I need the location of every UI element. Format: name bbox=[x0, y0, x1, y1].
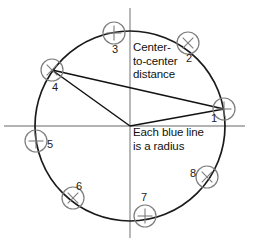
point-label-5: 5 bbox=[47, 138, 53, 150]
diagram-canvas: 1 2 3 4 5 bbox=[0, 0, 257, 244]
annotation-center-to-center-distance: Center- to-center distance bbox=[133, 41, 177, 82]
point-marker-5: 5 bbox=[25, 130, 53, 152]
point-label-7: 7 bbox=[141, 191, 147, 203]
radius-to-point-1 bbox=[130, 109, 224, 126]
point-label-4: 4 bbox=[52, 81, 58, 93]
circle-diagram: 1 2 3 4 5 bbox=[0, 0, 257, 244]
annotation-line-1: Center- bbox=[133, 41, 177, 55]
point-label-3: 3 bbox=[112, 43, 118, 55]
point-label-1: 1 bbox=[211, 112, 217, 124]
point-label-8: 8 bbox=[190, 167, 196, 179]
annotation-each-blue-line-is-a-radius: Each blue line is a radius bbox=[133, 126, 204, 153]
annotation-line-1: Each blue line bbox=[133, 126, 204, 140]
point-marker-2: 2 bbox=[177, 32, 199, 64]
point-marker-3: 3 bbox=[103, 22, 125, 55]
annotation-line-2: is a radius bbox=[133, 140, 204, 154]
point-marker-7: 7 bbox=[134, 191, 156, 227]
point-label-6: 6 bbox=[76, 180, 82, 192]
annotation-line-2: to-center bbox=[133, 55, 177, 69]
axis-group bbox=[4, 8, 245, 238]
point-label-2: 2 bbox=[186, 52, 192, 64]
annotation-line-3: distance bbox=[133, 68, 177, 82]
